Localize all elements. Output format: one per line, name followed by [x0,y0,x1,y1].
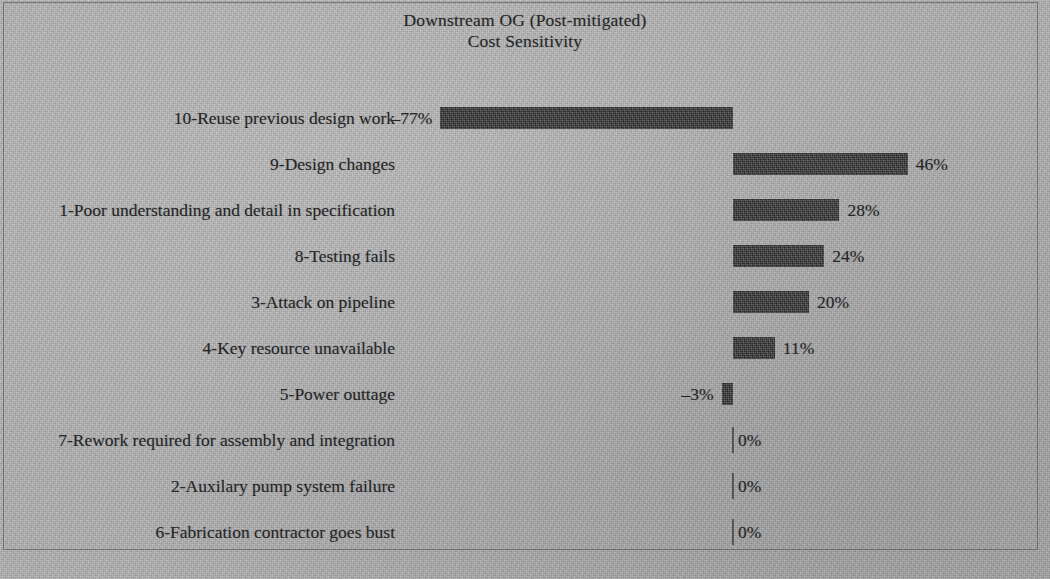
bar-value-label: 46% [916,154,948,174]
category-label: 9-Design changes [270,154,395,174]
bar-value-label: 0% [738,522,761,542]
bar-row: 9-Design changes46% [0,141,1050,187]
bar-value-label: 24% [832,246,864,266]
chart-title-line-2: Cost Sensitivity [0,31,1050,52]
bar [733,291,809,313]
bar-value-label: 20% [817,292,849,312]
chart-page: Downstream OG (Post-mitigated) Cost Sens… [0,0,1050,579]
bar [440,107,733,129]
bar [722,383,733,405]
category-label: 2-Auxilary pump system failure [171,476,395,496]
bar-value-label: 0% [738,430,761,450]
bar-chart-plot-area: 10-Reuse previous design work–77%9-Desig… [0,0,1050,579]
bar-row: 7-Rework required for assembly and integ… [0,417,1050,463]
chart-title-line-1: Downstream OG (Post-mitigated) [0,10,1050,31]
category-label: 8-Testing fails [295,246,395,266]
category-label: 6-Fabrication contractor goes bust [155,522,395,542]
bar-value-label: –3% [682,384,714,404]
bar [732,473,734,499]
bar-row: 2-Auxilary pump system failure0% [0,463,1050,509]
bar-value-label: 11% [783,338,814,358]
bar-row: 8-Testing fails24% [0,233,1050,279]
bar-row: 3-Attack on pipeline20% [0,279,1050,325]
bar [732,427,734,453]
bar [733,153,908,175]
bar-row: 6-Fabrication contractor goes bust0% [0,509,1050,555]
category-label: 7-Rework required for assembly and integ… [58,430,395,450]
bar [733,245,824,267]
category-label: 4-Key resource unavailable [203,338,395,358]
category-label: 5-Power outtage [280,384,395,404]
bar-row: 4-Key resource unavailable11% [0,325,1050,371]
bar-value-label: –77% [392,108,433,128]
bar [732,519,734,545]
bar [733,337,775,359]
category-label: 1-Poor understanding and detail in speci… [59,200,395,220]
bar-row: 10-Reuse previous design work–77% [0,95,1050,141]
bar-value-label: 28% [847,200,879,220]
bar-row: 1-Poor understanding and detail in speci… [0,187,1050,233]
category-label: 10-Reuse previous design work [174,108,395,128]
bar-value-label: 0% [738,476,761,496]
bar [733,199,839,221]
bar-row: 5-Power outtage–3% [0,371,1050,417]
category-label: 3-Attack on pipeline [251,292,395,312]
